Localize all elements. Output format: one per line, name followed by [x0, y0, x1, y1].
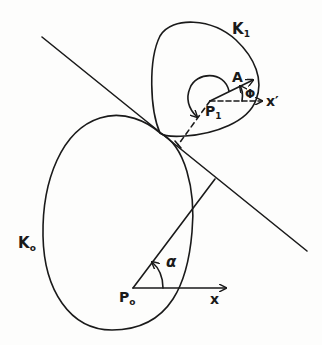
curve-k0: [43, 115, 193, 330]
diagram-drawing: [0, 0, 322, 345]
phi-angle-arc: [240, 86, 243, 101]
x-label: x: [210, 292, 219, 306]
contact-curves-diagram: K1 Ko P1 Po A Φ α x x′: [0, 0, 322, 345]
k1-label: K1: [232, 22, 250, 39]
phi-label: Φ: [245, 88, 255, 100]
x-prime-label: x′: [266, 94, 279, 108]
alpha-angle-arc: [152, 262, 163, 288]
p1-label: P1: [205, 104, 222, 121]
a-label: A: [232, 70, 243, 84]
k0-label: Ko: [18, 236, 36, 253]
alpha-label: α: [166, 255, 176, 270]
p0-normal-line: [133, 179, 215, 288]
p0-label: Po: [119, 290, 135, 307]
